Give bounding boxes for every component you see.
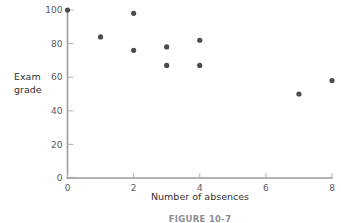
y-tick-label: 40 <box>51 106 63 116</box>
y-tick-label: 20 <box>51 140 63 150</box>
y-axis-label-line2: grade <box>14 84 42 95</box>
figure-caption: FIGURE 10-7 <box>169 214 232 223</box>
x-axis-label: Number of absences <box>151 191 249 202</box>
y-tick-marks <box>68 10 74 178</box>
scatter-plot: 020406080100 02468 Exam grade Number of … <box>0 0 341 223</box>
data-point <box>197 38 202 43</box>
x-tick-label: 8 <box>329 183 335 193</box>
data-point <box>296 91 301 96</box>
scatter-figure: 020406080100 02468 Exam grade Number of … <box>0 0 341 223</box>
x-tick-label: 6 <box>263 183 269 193</box>
data-point <box>164 44 169 49</box>
y-tick-label: 80 <box>51 39 63 49</box>
x-tick-label: 0 <box>65 183 71 193</box>
y-tick-labels: 020406080100 <box>45 5 62 183</box>
data-point <box>98 34 103 39</box>
data-point <box>131 48 136 53</box>
data-point <box>131 11 136 16</box>
x-tick-label: 2 <box>131 183 137 193</box>
data-point <box>197 63 202 68</box>
y-tick-label: 60 <box>51 72 63 82</box>
y-axis-group: 020406080100 <box>45 5 73 183</box>
data-points <box>65 7 335 96</box>
x-axis-group: 02468 <box>65 173 336 193</box>
y-tick-label: 0 <box>57 173 63 183</box>
data-point <box>164 63 169 68</box>
y-axis-label-line1: Exam <box>14 71 41 82</box>
y-tick-label: 100 <box>45 5 62 15</box>
data-point <box>65 7 70 12</box>
data-point <box>329 78 334 83</box>
